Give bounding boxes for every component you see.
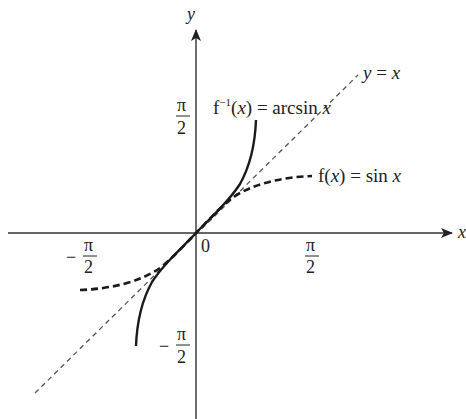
- svg-text:π: π: [306, 235, 315, 255]
- svg-text:π: π: [177, 95, 186, 115]
- x-axis-label: x: [457, 222, 466, 242]
- svg-text:2: 2: [306, 257, 315, 277]
- sin-curve-label: f(x) = sin x: [318, 165, 402, 187]
- svg-text:−: −: [159, 336, 169, 356]
- arcsin-curve-label: f−1(x) = arcsin x: [213, 96, 331, 119]
- tick-x-pos-pi-over-2: π 2: [305, 235, 319, 277]
- tick-x-neg-pi-over-2: − π 2: [66, 235, 97, 277]
- svg-text:π: π: [177, 324, 186, 344]
- y-axis-label: y: [185, 4, 195, 24]
- svg-text:2: 2: [177, 347, 186, 367]
- svg-text:2: 2: [177, 118, 186, 138]
- identity-line-label: y = x: [361, 62, 401, 83]
- svg-text:2: 2: [84, 257, 93, 277]
- svg-text:−: −: [66, 247, 76, 267]
- svg-text:π: π: [84, 235, 93, 255]
- diagram-canvas: y x 0 − π 2 π 2 π 2 − π 2 y = x f−1(x) =…: [0, 0, 466, 419]
- tick-y-pos-pi-over-2: π 2: [176, 95, 190, 138]
- tick-y-neg-pi-over-2: − π 2: [159, 324, 190, 367]
- origin-label: 0: [201, 236, 210, 256]
